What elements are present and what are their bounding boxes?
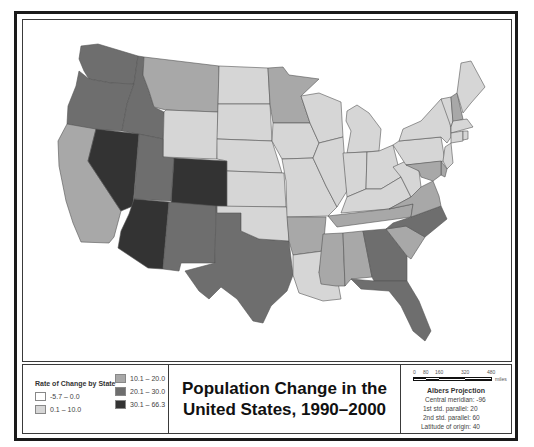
state-montana[interactable] — [143, 57, 219, 112]
legend-item: 20.1 – 30.0 — [115, 387, 165, 396]
legend-swatch — [115, 387, 126, 396]
legend-swatch — [35, 392, 46, 401]
state-florida[interactable] — [351, 279, 431, 341]
scale-unit: miles — [495, 376, 507, 382]
state-connecticut[interactable] — [451, 131, 463, 143]
state-new-mexico[interactable] — [163, 202, 216, 271]
map-title-line2: United States, 1990–2000 — [182, 399, 387, 420]
projection-title: Albers Projection — [401, 387, 511, 394]
state-kansas[interactable] — [227, 171, 286, 207]
state-north-dakota[interactable] — [218, 66, 270, 104]
legend-swatch — [115, 374, 126, 383]
legend-swatch — [35, 405, 46, 414]
state-south-dakota[interactable] — [217, 104, 272, 141]
map-title-line1: Population Change in the — [182, 378, 387, 399]
title-panel: Population Change in the United States, … — [169, 365, 401, 433]
legend-label: 30.1 – 66.3 — [130, 401, 165, 408]
legend: Rate of Change by State -5.7 – 0.0 0.1 –… — [23, 365, 169, 433]
state-rhode-island[interactable] — [463, 131, 468, 140]
projection-line: 2nd std. parallel: 60 — [423, 414, 480, 421]
legend-label: 20.1 – 30.0 — [130, 388, 165, 395]
legend-label: 0.1 – 10.0 — [50, 406, 81, 413]
scale-tick: 80 — [423, 369, 429, 375]
state-wyoming[interactable] — [163, 110, 218, 159]
state-iowa[interactable] — [272, 123, 319, 159]
state-maine[interactable] — [457, 61, 485, 113]
map-panel — [22, 19, 512, 362]
state-new-jersey[interactable] — [443, 143, 453, 169]
legend-swatch — [115, 400, 126, 409]
scale-bar-labels: 0 80 160 320 480 — [411, 369, 506, 377]
legend-item: 30.1 – 66.3 — [115, 400, 165, 409]
state-nebraska[interactable] — [217, 139, 282, 173]
legend-title: Rate of Change by State — [35, 380, 116, 387]
legend-item: -5.7 – 0.0 — [35, 392, 80, 401]
state-michigan[interactable] — [346, 105, 381, 153]
map-footer: Rate of Change by State -5.7 – 0.0 0.1 –… — [22, 364, 512, 434]
projection-info: 0 80 160 320 480 miles Albers Projection… — [401, 365, 511, 433]
legend-item: 0.1 – 10.0 — [35, 405, 81, 414]
state-colorado[interactable] — [171, 158, 227, 207]
legend-label: -5.7 – 0.0 — [50, 393, 80, 400]
state-mississippi[interactable] — [319, 233, 345, 286]
map-title: Population Change in the United States, … — [182, 378, 387, 420]
state-arkansas[interactable] — [287, 217, 326, 255]
us-state-map — [23, 20, 513, 363]
legend-item: 10.1 – 20.0 — [115, 374, 165, 383]
scale-tick: 320 — [461, 369, 469, 375]
state-pennsylvania[interactable] — [393, 137, 445, 165]
projection-line: Central meridian: -96 — [425, 396, 486, 403]
legend-label: 10.1 – 20.0 — [130, 375, 165, 382]
scale-tick: 160 — [435, 369, 443, 375]
scale-bar — [413, 377, 493, 381]
projection-line: Latitude of origin: 40 — [421, 423, 480, 430]
scale-tick: 480 — [487, 369, 495, 375]
state-arizona[interactable] — [118, 199, 169, 269]
scale-tick: 0 — [413, 369, 416, 375]
projection-line: 1st std. parallel: 20 — [423, 405, 478, 412]
